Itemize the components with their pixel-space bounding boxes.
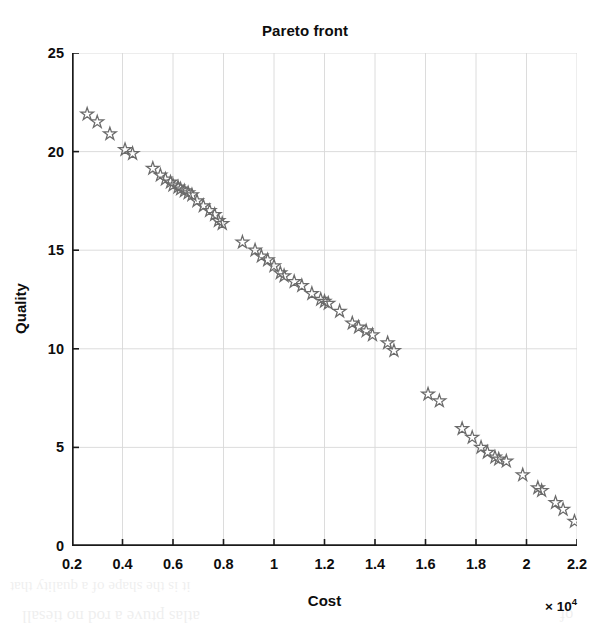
x-axis-tick-label: 2.2 (567, 556, 587, 572)
x-axis-tick-label: 1.2 (314, 556, 334, 572)
x-axis-tick-label: 0.4 (112, 556, 132, 572)
x-axis-tick-label: 1.4 (365, 556, 385, 572)
data-point-star (126, 147, 139, 159)
x-axis-tick-label: 1.8 (466, 556, 486, 572)
y-axis-tick-label: 0 (26, 538, 64, 554)
bleed-through-text: atlas ptuve a rod no tiesall (22, 606, 200, 626)
y-axis-tick-label: 15 (26, 242, 64, 258)
data-point-star (535, 484, 548, 496)
data-point-star (456, 422, 469, 434)
data-point-star (516, 468, 529, 480)
data-point-star (91, 115, 104, 127)
data-point-star (388, 344, 401, 356)
data-point-star (568, 515, 577, 527)
x-axis-label: Cost (72, 592, 577, 609)
y-axis-tick-label: 25 (26, 45, 64, 61)
data-point-star (346, 316, 359, 328)
data-point-star (146, 162, 159, 174)
x-axis-tick-label: 0.6 (163, 556, 183, 572)
x-axis-tick-label: 1 (270, 556, 278, 572)
plot-area (72, 53, 577, 546)
y-axis-tick-label: 10 (26, 341, 64, 357)
data-point-star (466, 431, 479, 443)
exponent-prefix: × 10 (545, 599, 572, 614)
figure-canvas: it is the shape of a quality thatatlas p… (0, 0, 610, 633)
data-point-star (422, 387, 435, 399)
data-point-star (360, 324, 373, 336)
data-point-star (333, 305, 346, 317)
chart-title: Pareto front (0, 22, 610, 39)
data-point-star (433, 394, 446, 406)
x-axis-tick-label: 2 (522, 556, 530, 572)
y-axis-tick-label: 5 (26, 439, 64, 455)
data-point-star (81, 107, 94, 119)
data-point-star (255, 249, 268, 261)
data-point-star (366, 328, 379, 340)
x-axis-tick-label: 1.6 (415, 556, 435, 572)
exponent-power: 4 (572, 596, 577, 607)
x-axis-tick-label: 0.8 (213, 556, 233, 572)
data-point-star (104, 127, 117, 139)
data-point-star (236, 236, 249, 248)
data-point-markers (81, 107, 577, 526)
data-point-star (295, 279, 308, 291)
x-axis-exponent-label: × 104 (545, 596, 577, 614)
x-axis-tick-label: 0.2 (62, 556, 82, 572)
y-axis-label: Quality (12, 283, 29, 334)
data-point-star (549, 496, 562, 508)
scatter-plot-svg (72, 53, 577, 546)
y-axis-tick-label: 20 (26, 144, 64, 160)
data-point-star (381, 336, 394, 348)
